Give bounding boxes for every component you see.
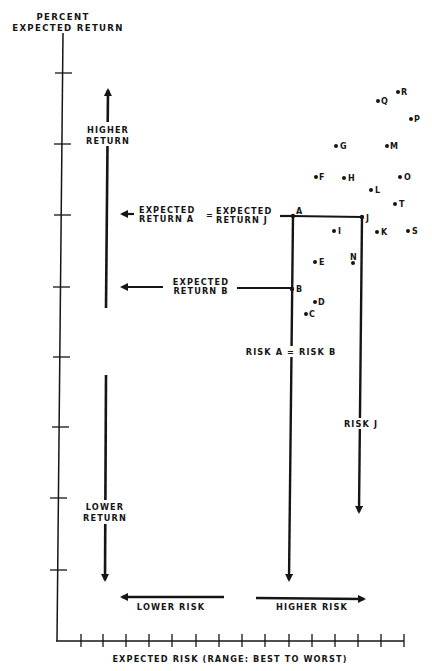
higher-return-label-line1: HIGHER [87,125,129,135]
point-o: O [398,173,411,182]
expected-return-j-line2: RETURN J [216,215,268,225]
y-axis-title-line1: PERCENT [36,12,89,22]
svg-text:A: A [296,207,303,216]
return-a-j-line [291,216,362,217]
risk-j-arrow [359,217,362,512]
svg-text:J: J [365,214,369,223]
risk-return-diagram: PERCENT EXPECTED RETURN EXPECTED RISK [0,0,432,671]
point-n: N [350,253,357,265]
risk-a-equals-risk-b-label: RISK A = RISK B [246,347,337,357]
svg-text:L: L [375,186,380,195]
x-axis-title: EXPECTED RISK (RANGE: BEST TO WORST) [112,654,347,664]
y-axis-ticks [50,73,72,570]
lower-return-label-line1: LOWER [86,502,124,512]
svg-text:K: K [381,228,388,237]
svg-text:H: H [348,174,355,183]
risk-a-b-arrow [289,216,293,580]
y-axis-title-line2: EXPECTED RETURN [12,23,123,33]
equals-sign: = [206,210,214,220]
higher-risk-label: HIGHER RISK [276,602,348,612]
lower-return-arrow [105,375,106,580]
point-d: D [313,298,325,307]
point-t: T [393,200,405,209]
lower-return-label-line2: RETURN [83,513,127,523]
point-s: S [406,227,418,236]
y-axis-line [57,33,63,641]
point-q: Q [376,97,388,106]
point-l: L [369,186,380,195]
point-i: I [332,227,341,236]
point-m: M [385,142,398,151]
scatter-points: A B C D E F G H I J K L M N O P Q R S T [290,88,420,319]
point-r: R [396,88,407,97]
svg-text:B: B [296,285,302,294]
svg-text:F: F [319,173,324,182]
svg-text:M: M [390,142,398,151]
point-f: F [314,173,324,182]
svg-text:G: G [340,142,347,151]
svg-text:O: O [404,173,411,182]
higher-return-label-line2: RETURN [86,136,130,146]
svg-text:S: S [412,227,418,236]
point-c: C [304,310,315,319]
lower-risk-label: LOWER RISK [137,602,205,612]
svg-text:D: D [318,298,325,307]
point-k: K [375,228,388,237]
svg-text:C: C [309,310,315,319]
svg-text:N: N [350,253,357,262]
svg-text:T: T [399,200,405,209]
point-h: H [342,174,355,183]
svg-text:I: I [338,227,341,236]
svg-text:R: R [401,88,407,97]
risk-j-label: RISK J [344,419,378,429]
expected-return-a-line2: RETURN A [139,214,194,224]
higher-risk-arrow [256,598,364,599]
point-e: E [313,258,324,267]
point-g: G [334,142,347,151]
svg-text:P: P [414,115,420,124]
svg-text:Q: Q [381,97,388,106]
expected-return-b-line2: RETURN B [173,286,228,296]
point-p: P [409,115,420,124]
svg-text:E: E [319,258,324,267]
